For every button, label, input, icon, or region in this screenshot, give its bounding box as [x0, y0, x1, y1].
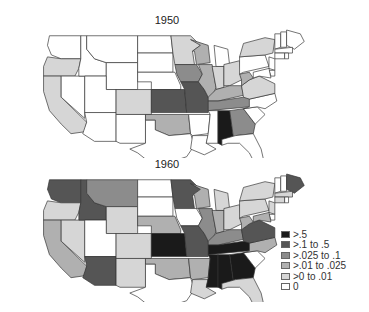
state-nj — [269, 57, 275, 70]
legend-label: >.025 to .1 — [293, 250, 341, 261]
state-ks — [151, 234, 186, 257]
legend-item: >.1 to .5 — [281, 240, 346, 251]
state-co — [116, 90, 151, 115]
state-az — [83, 113, 116, 142]
state-nd — [138, 36, 173, 53]
state-ar — [189, 114, 211, 135]
legend-swatch — [281, 252, 290, 259]
state-nh — [281, 32, 287, 47]
state-ia — [175, 209, 202, 226]
state-ne — [138, 72, 181, 89]
state-nm — [116, 258, 145, 287]
state-ny — [240, 182, 275, 201]
state-mt — [87, 36, 138, 63]
state-mi — [214, 45, 230, 66]
state-nd — [138, 180, 173, 197]
state-sd — [138, 197, 173, 216]
state-vt — [275, 34, 281, 49]
legend-swatch — [281, 262, 290, 269]
state-wa — [47, 36, 80, 59]
legend: >.5 >.1 to .5 >.025 to .1 >.01 to .025 >… — [281, 229, 346, 292]
map-1960 — [0, 172, 310, 302]
state-fl — [222, 278, 265, 302]
legend-swatch — [281, 283, 290, 290]
state-ct — [275, 197, 285, 203]
map-1950 — [0, 28, 310, 158]
state-ne — [138, 216, 181, 233]
legend-swatch — [281, 231, 290, 238]
state-ar — [189, 258, 211, 279]
state-ia — [175, 65, 202, 82]
panel-title-1960: 1960 — [137, 158, 197, 170]
state-or — [44, 201, 81, 220]
state-ks — [151, 90, 186, 113]
legend-swatch — [281, 241, 290, 248]
legend-item: >.01 to .025 — [281, 261, 346, 272]
state-md — [253, 212, 271, 222]
state-co — [116, 234, 151, 259]
state-vt — [275, 178, 281, 193]
state-me — [287, 30, 305, 49]
state-or — [44, 57, 81, 76]
legend-item: >.5 — [281, 229, 346, 240]
state-az — [83, 257, 116, 286]
state-sd — [138, 53, 173, 72]
state-wy — [106, 207, 137, 234]
legend-label: >0 to .01 — [293, 271, 332, 282]
legend-label: >.1 to .5 — [293, 239, 329, 250]
state-wy — [106, 63, 137, 90]
legend-label: >.5 — [293, 229, 307, 240]
state-wa — [47, 180, 80, 203]
state-mt — [87, 180, 138, 207]
state-ny — [240, 38, 275, 57]
legend-item: 0 — [281, 282, 346, 293]
state-fl — [222, 134, 265, 158]
state-oh — [224, 61, 242, 86]
legend-label: >.01 to .025 — [293, 260, 346, 271]
state-mi — [214, 189, 230, 210]
legend-item: >.025 to .1 — [281, 250, 346, 261]
state-ri — [285, 53, 289, 59]
state-oh — [224, 205, 242, 230]
state-nj — [269, 201, 275, 214]
state-nh — [281, 176, 287, 191]
panel-title-1950: 1950 — [137, 14, 197, 26]
state-nm — [116, 114, 145, 143]
legend-swatch — [281, 273, 290, 280]
legend-label: 0 — [293, 281, 299, 292]
legend-item: >0 to .01 — [281, 271, 346, 282]
state-ri — [285, 197, 289, 203]
state-ct — [275, 53, 285, 59]
state-me — [287, 174, 305, 193]
state-md — [253, 68, 271, 78]
